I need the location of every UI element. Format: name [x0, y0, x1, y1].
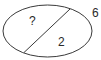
ellipse-outline [3, 5, 92, 57]
region-label-lower-right: 2 [58, 35, 65, 49]
region-label-upper-left: ? [29, 14, 36, 28]
ellipse-diagram: ? 2 6 [0, 0, 101, 60]
outside-label: 6 [92, 6, 99, 20]
